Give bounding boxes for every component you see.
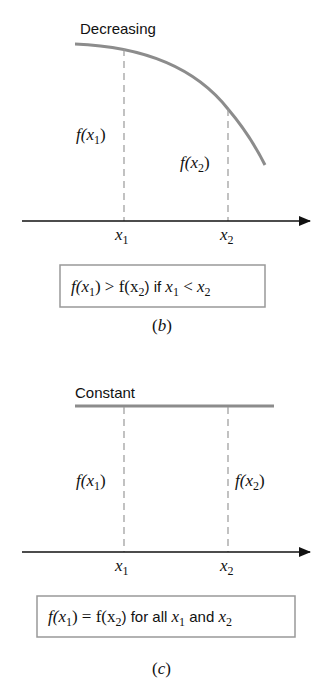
x1-tick-label: x1: [114, 225, 129, 247]
panel-caption: (b): [152, 316, 172, 335]
decreasing-curve: [75, 44, 265, 165]
x2-tick-label: x2: [219, 556, 234, 578]
x1-tick-label: x1: [114, 556, 129, 578]
f-x1-label: f(x1): [76, 125, 106, 147]
panel-caption: (c): [152, 659, 171, 678]
function-behavior-diagram: Decreasing f(x1) f(x2) x1 x2 f(x1) > f(x…: [0, 0, 332, 682]
condition-text: f(x1) > f(x2) if x1 < x2: [71, 277, 211, 299]
panel-constant: Constant f(x1) f(x2) x1 x2 f(x1) = f(x2)…: [22, 384, 310, 678]
panel-title: Decreasing: [80, 20, 156, 37]
condition-text: f(x1) = f(x2) for all x1 and x2: [48, 607, 232, 629]
x2-tick-label: x2: [219, 225, 234, 247]
panel-decreasing: Decreasing f(x1) f(x2) x1 x2 f(x1) > f(x…: [22, 20, 310, 335]
f-x1-label: f(x1): [76, 471, 106, 493]
f-x2-label: f(x2): [180, 153, 210, 175]
f-x2-label: f(x2): [235, 471, 265, 493]
panel-title: Constant: [75, 384, 136, 401]
